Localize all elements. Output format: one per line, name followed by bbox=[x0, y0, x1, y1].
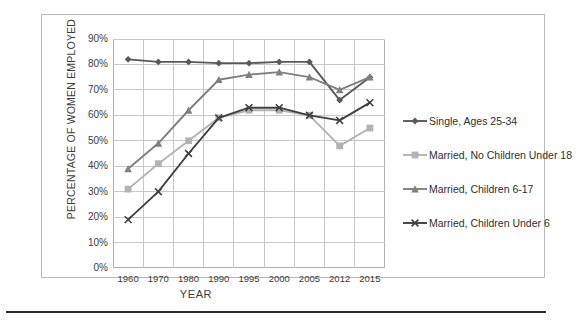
y-tick-label: 10% bbox=[88, 238, 108, 248]
legend-label: Single, Ages 25-34 bbox=[429, 115, 517, 127]
legend-label: Married, Children Under 6 bbox=[429, 217, 550, 229]
x-tick-label: 1970 bbox=[148, 274, 169, 284]
y-tick-label: 70% bbox=[88, 85, 108, 95]
legend-marker-diamond-icon bbox=[402, 114, 428, 128]
legend-marker-square-icon bbox=[402, 148, 428, 162]
y-tick-label: 20% bbox=[88, 212, 108, 222]
legend-marker-triangle-icon bbox=[402, 182, 428, 196]
legend-item[interactable]: Single, Ages 25-34 bbox=[402, 107, 577, 135]
legend-label: Married, No Children Under 18 bbox=[429, 149, 572, 161]
legend-item[interactable]: Married, No Children Under 18 bbox=[402, 141, 577, 169]
y-tick-label: 40% bbox=[88, 161, 108, 171]
chart-lines-svg bbox=[113, 39, 385, 268]
plot-wrapper: 0%10%20%30%40%50%60%70%80%90% 1960197019… bbox=[113, 39, 385, 268]
y-tick-label: 90% bbox=[88, 34, 108, 44]
y-axis-title: PERCENTAGE OF WOMEN EMPLOYED bbox=[65, 0, 77, 244]
bottom-divider bbox=[6, 311, 546, 313]
x-axis-title: YEAR bbox=[41, 288, 351, 300]
legend-marker-x-icon bbox=[402, 216, 428, 230]
chart-frame: PERCENTAGE OF WOMEN EMPLOYED 0%10%20%30%… bbox=[41, 14, 545, 278]
x-tick-label: 2012 bbox=[329, 274, 350, 284]
x-tick-label: 1995 bbox=[238, 274, 259, 284]
legend-item[interactable]: Married, Children 6-17 bbox=[402, 175, 577, 203]
legend-item[interactable]: Married, Children Under 6 bbox=[402, 209, 577, 237]
x-tick-label: 1990 bbox=[208, 274, 229, 284]
x-tick-label: 1960 bbox=[118, 274, 139, 284]
x-tick-label: 2015 bbox=[359, 274, 380, 284]
y-tick-label: 0% bbox=[94, 263, 108, 273]
series-line-0 bbox=[125, 56, 374, 104]
x-tick-label: 1980 bbox=[178, 274, 199, 284]
x-tick-label: 2005 bbox=[299, 274, 320, 284]
y-tick-label: 50% bbox=[88, 136, 108, 146]
legend-label: Married, Children 6-17 bbox=[429, 183, 533, 195]
y-tick-label: 80% bbox=[88, 59, 108, 69]
y-tick-label: 60% bbox=[88, 110, 108, 120]
x-tick-label: 2000 bbox=[269, 274, 290, 284]
chart-legend: Single, Ages 25-34Married, No Children U… bbox=[402, 107, 577, 243]
y-tick-label: 30% bbox=[88, 187, 108, 197]
